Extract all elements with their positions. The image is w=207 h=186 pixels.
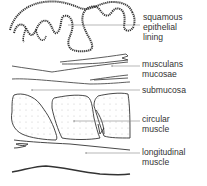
label-submucosa: submucosa	[142, 85, 186, 95]
muscularis-mucosae-lines	[12, 54, 130, 84]
label-squamous-epithelial-lining: squamous epithelial lining	[143, 12, 183, 42]
longitudinal-muscle-outer-line	[12, 166, 130, 175]
label-muscularis-mucosae: musculans mucosae	[142, 59, 183, 79]
label-circular-muscle: circular muscle	[142, 114, 170, 134]
label-longitudinal-muscle: longitudinal muscle	[142, 147, 185, 167]
epithelium-folds	[10, 1, 135, 51]
circular-muscle-blocks	[11, 93, 130, 140]
circular-longitudinal-boundary	[14, 140, 130, 150]
